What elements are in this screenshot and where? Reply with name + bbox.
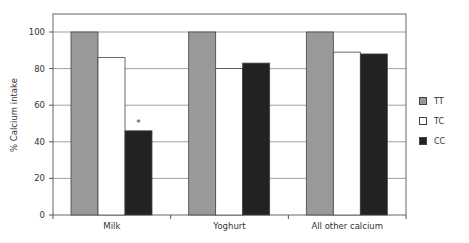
y-tick-label: 20 [34, 173, 45, 183]
bar-tt [306, 32, 333, 215]
y-tick-label: 60 [34, 100, 45, 110]
bar-cc [125, 131, 152, 215]
significance-marker: * [136, 118, 141, 128]
bar-tc [216, 69, 243, 215]
legend-swatch-cc [419, 137, 427, 145]
y-tick-label: 0 [40, 210, 45, 220]
legend-swatch-tt [419, 97, 427, 105]
bar-tc [333, 52, 360, 215]
x-tick-label: All other calcium [311, 221, 383, 231]
legend-label-tt: TT [434, 97, 444, 106]
legend-label-tc: TC [434, 117, 444, 126]
y-tick-label: 80 [34, 64, 45, 74]
y-axis-label-text: % Calcium intake [9, 78, 19, 152]
bar-cc [243, 63, 270, 215]
bar-cc [360, 54, 387, 215]
legend-label-cc: CC [434, 137, 445, 146]
bar-tt [189, 32, 216, 215]
x-tick-label: Yoghurt [212, 221, 246, 231]
legend-item-cc: CC [419, 131, 445, 151]
legend-swatch-tc [419, 117, 427, 125]
legend: TT TC CC [419, 91, 445, 151]
y-tick-label: 40 [34, 137, 45, 147]
legend-item-tc: TC [419, 111, 445, 131]
legend-item-tt: TT [419, 91, 445, 111]
bar-tc [98, 58, 125, 215]
bar-tt [71, 32, 98, 215]
x-tick-label: Milk [103, 221, 120, 231]
y-tick-label: 100 [29, 27, 45, 37]
bar-chart: 020406080100MilkYoghurtAll other calcium… [0, 0, 469, 243]
